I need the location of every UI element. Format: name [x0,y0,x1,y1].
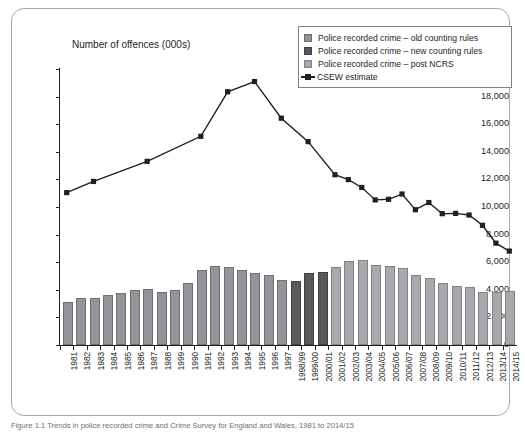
plot-area [60,69,516,345]
x-tick-mark [368,346,369,350]
legend-item-label: Police recorded crime – new counting rul… [318,46,482,56]
csew-data-marker [306,139,311,144]
x-tick-mark [355,346,356,350]
x-tick-label: 2013/14 [499,352,507,382]
bar [478,292,488,345]
x-tick-label: 1992 [217,352,225,370]
legend-item: Police recorded crime – old counting rul… [304,31,507,44]
x-tick-mark [422,346,423,350]
x-tick-mark [288,346,289,350]
x-tick-label: 2002/03 [352,352,360,382]
x-tick-label: 1999/00 [311,352,319,382]
x-tick-mark [100,346,101,350]
x-tick-mark [140,346,141,350]
x-tick-label: 1999 [177,352,185,370]
chart-panel: Number of offences (000s) 20,00018,00016… [11,8,510,416]
bar [264,275,274,345]
x-tick-mark [409,346,410,350]
bar [411,275,421,345]
csew-data-marker [359,185,364,190]
bar [465,287,475,345]
legend-item: Police recorded crime – post NCRS [304,57,507,70]
csew-data-marker [413,207,418,212]
bar [130,290,140,345]
bar [103,295,113,345]
csew-data-marker [332,172,337,177]
bar [170,290,180,345]
x-tick-label: 1986 [137,352,145,370]
x-tick-label: 1991 [204,352,212,370]
x-tick-label: 2003/04 [365,352,373,382]
legend-item-label: Police recorded crime – old counting rul… [318,33,478,43]
bar [452,286,462,345]
x-tick-mark [382,346,383,350]
bar [237,270,247,345]
x-tick-label: 1996 [271,352,279,370]
bar [331,267,341,345]
x-tick-label: 2008/09 [432,352,440,382]
x-tick-mark [60,346,61,350]
x-tick-mark [503,346,504,350]
bar [318,272,328,345]
csew-line-path [67,82,510,252]
x-tick-label: 1997 [284,352,292,370]
x-tick-mark [436,346,437,350]
csew-data-marker [91,179,96,184]
x-tick-label: 2012/13 [486,352,494,382]
x-tick-mark [462,346,463,350]
chart-legend: Police recorded crime – old counting rul… [298,26,512,88]
csew-data-marker [279,116,284,121]
csew-data-marker [480,223,485,228]
bar [224,267,234,345]
x-tick-mark [395,346,396,350]
csew-data-marker [346,177,351,182]
bar [358,260,368,345]
x-tick-label: 1981 [70,352,78,370]
csew-data-marker [386,197,391,202]
bar [371,265,381,345]
csew-data-marker [426,200,431,205]
x-tick-label: 1994 [244,352,252,370]
x-tick-label: 2005/06 [392,352,400,382]
x-tick-label: 2007/08 [419,352,427,382]
x-tick-label: 2011/12 [472,352,480,381]
bar [425,278,435,345]
x-tick-label: 2014/15 [512,352,520,382]
bar [277,280,287,345]
bar [398,268,408,345]
x-tick-label: 1987 [150,352,158,370]
bar [344,261,354,345]
x-tick-mark [208,346,209,350]
csew-data-marker [198,134,203,139]
x-tick-label: 1982 [83,352,91,370]
bar [183,283,193,345]
bar [291,281,301,345]
x-tick-label: 1988 [164,352,172,370]
bar [90,298,100,345]
csew-data-marker [466,212,471,217]
x-tick-mark [301,346,302,350]
csew-data-marker [225,89,230,94]
x-tick-mark [181,346,182,350]
x-tick-label: 1995 [258,352,266,370]
x-tick-mark [261,346,262,350]
csew-data-marker [64,190,69,195]
csew-data-marker [507,248,512,253]
x-tick-label: 1990 [191,352,199,370]
bar [157,292,167,345]
legend-item-label: CSEW estimate [317,72,378,82]
x-tick-mark [73,346,74,350]
legend-item: CSEW estimate [304,70,507,83]
x-tick-mark [114,346,115,350]
csew-data-marker [145,159,150,164]
csew-data-marker [453,211,458,216]
y-axis-title: Number of offences (000s) [72,39,190,50]
x-tick-mark [342,346,343,350]
csew-data-marker [252,79,257,84]
x-tick-label: 2010/11 [459,352,467,381]
bar [438,283,448,345]
bar [385,266,395,345]
x-tick-mark [221,346,222,350]
bar [197,270,207,345]
bar [304,273,314,346]
